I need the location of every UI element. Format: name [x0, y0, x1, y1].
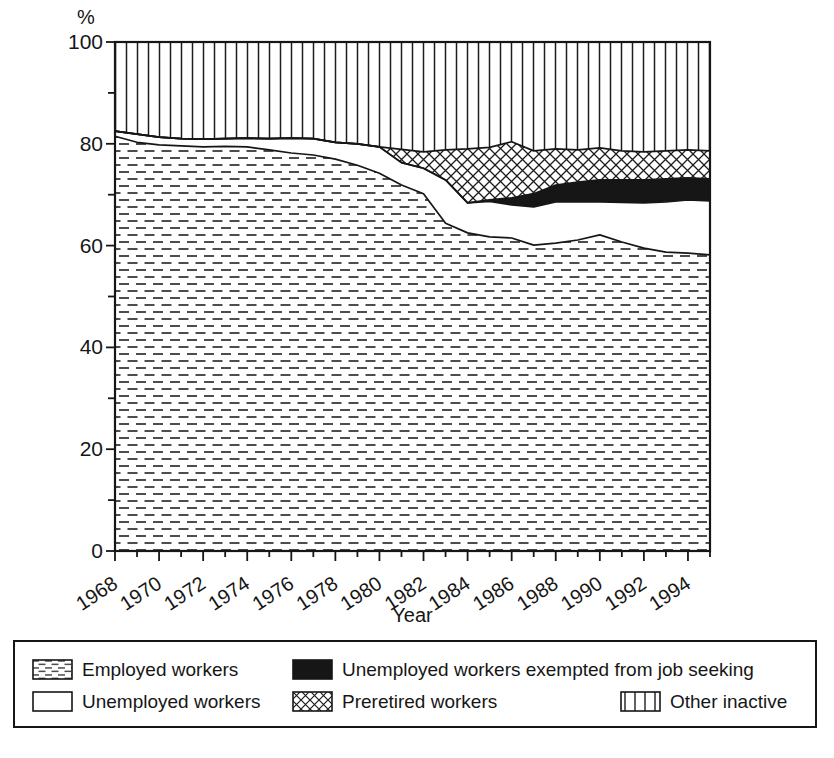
- x-tick-label-1976: 1976: [248, 572, 297, 615]
- legend-item-unemployed: Unemployed workers: [32, 691, 260, 712]
- legend-label-unemployed: Unemployed workers: [82, 691, 260, 712]
- figure-page: 0204060801001968197019721974197619781980…: [0, 0, 834, 758]
- x-tick-label-1992: 1992: [601, 572, 650, 615]
- preretired-pattern-swatch: [292, 691, 333, 712]
- legend-item-preretired: Preretired workers: [292, 691, 497, 712]
- y-axis-title: %: [77, 6, 95, 28]
- y-tick-label-80: 80: [80, 132, 103, 155]
- y-tick-label-60: 60: [80, 234, 103, 257]
- legend-item-exempted: Unemployed workers exempted from job see…: [292, 659, 754, 680]
- other-inactive-pattern-swatch: [620, 691, 661, 712]
- employed-pattern-swatch: [32, 659, 73, 680]
- x-axis-title: Year: [392, 604, 433, 626]
- x-tick-label-1972: 1972: [160, 572, 209, 615]
- area-bands: [115, 42, 710, 551]
- y-tick-label-40: 40: [80, 335, 103, 358]
- legend-label-employed: Employed workers: [82, 659, 238, 680]
- legend-label-preretired: Preretired workers: [342, 691, 497, 712]
- x-tick-label-1986: 1986: [469, 572, 518, 615]
- y-tick-label-0: 0: [91, 539, 103, 562]
- unemployed-pattern-swatch: [32, 691, 73, 712]
- chart-legend: Employed workers Unemployed workers exem…: [13, 640, 817, 728]
- legend-item-employed: Employed workers: [32, 659, 238, 680]
- y-tick-label-20: 20: [80, 437, 103, 460]
- exempted-pattern-swatch: [292, 659, 333, 680]
- x-tick-label-1970: 1970: [116, 572, 165, 615]
- band-vlines: [115, 42, 710, 152]
- legend-label-other-inactive: Other inactive: [670, 691, 787, 712]
- x-tick-label-1974: 1974: [204, 572, 253, 615]
- x-tick-label-1994: 1994: [645, 572, 694, 615]
- x-tick-label-1968: 1968: [72, 572, 121, 615]
- x-tick-label-1988: 1988: [513, 572, 562, 615]
- y-tick-label-100: 100: [68, 30, 103, 53]
- x-tick-label-1980: 1980: [336, 572, 385, 615]
- legend-label-exempted: Unemployed workers exempted from job see…: [342, 659, 754, 680]
- stacked-area-chart: 0204060801001968197019721974197619781980…: [0, 0, 834, 634]
- x-tick-label-1990: 1990: [557, 572, 606, 615]
- x-tick-label-1978: 1978: [292, 572, 341, 615]
- legend-item-other-inactive: Other inactive: [620, 691, 787, 712]
